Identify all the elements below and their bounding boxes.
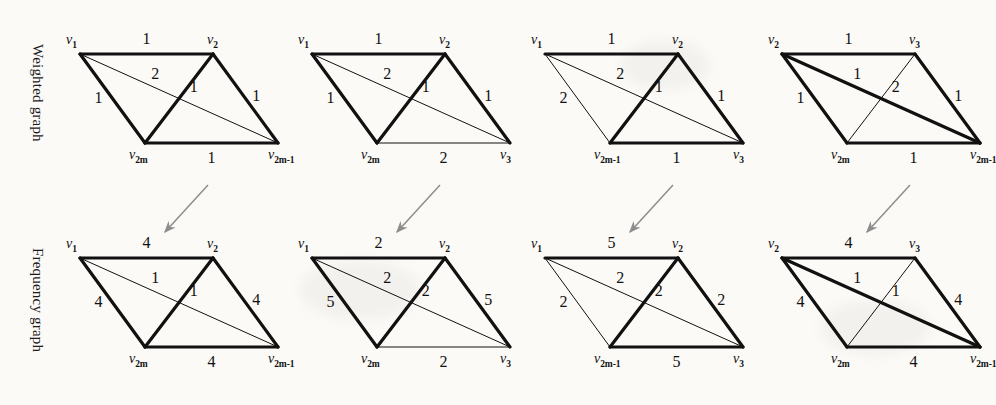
vertex-label-bottom-left: v2m [361, 147, 380, 165]
vertex-label-bottom-right: v3 [733, 351, 744, 369]
vertex-label-top-left: v2 [768, 236, 779, 254]
vertex-label-top-left: v1 [66, 32, 77, 50]
edge-weight-label: 1 [717, 87, 725, 105]
edge-weight-label: 2 [717, 291, 725, 309]
edge-weight-label: 1 [327, 89, 335, 107]
edge-weight-label: 1 [608, 30, 616, 48]
transform-arrow [165, 185, 208, 232]
edge-weight-label: 1 [954, 87, 962, 105]
graph-edge-long-diagonal [782, 258, 980, 347]
edge-weight-label: 1 [252, 87, 260, 105]
edge-weight-label: 1 [422, 78, 430, 96]
vertex-label-bottom-left: v2m-1 [594, 147, 620, 165]
edge-weight-label: 5 [484, 291, 492, 309]
graph-edge-left [80, 54, 145, 143]
edge-weight-label: 2 [383, 269, 391, 287]
edge-weight-label: 1 [190, 282, 198, 300]
edge-weight-label: 1 [892, 282, 900, 300]
edge-weight-label: 1 [673, 149, 681, 167]
edge-weight-label: 1 [910, 149, 918, 167]
graph-edge-long-diagonal [782, 54, 980, 143]
vertex-label-top-right: v2 [672, 32, 683, 50]
vertex-label-top-left: v1 [298, 32, 309, 50]
graph-edge-long-diagonal [80, 258, 278, 347]
edge-weight-label: 4 [95, 293, 103, 311]
vertex-label-top-right: v2 [672, 236, 683, 254]
edge-weight-label: 1 [853, 269, 861, 287]
vertex-label-top-right: v2 [207, 236, 218, 254]
edge-weight-label: 2 [383, 65, 391, 83]
graph-edge-long-diagonal [545, 258, 743, 347]
edge-weight-label: 1 [655, 78, 663, 96]
edge-weight-label: 2 [892, 78, 900, 96]
vertex-label-top-left: v1 [298, 236, 309, 254]
edge-weight-label: 5 [327, 293, 335, 311]
edge-weight-label: 1 [375, 30, 383, 48]
graph-edge-right [445, 258, 510, 347]
vertex-label-bottom-right: v3 [500, 351, 511, 369]
vertex-label-top-left: v1 [531, 236, 542, 254]
graph-edge-left [312, 54, 377, 143]
graph-edge-long-diagonal [312, 258, 510, 347]
edge-weight-label: 1 [190, 78, 198, 96]
graph-edge-right [213, 258, 278, 347]
edge-weight-label: 4 [208, 353, 216, 371]
edge-weight-label: 4 [252, 291, 260, 309]
edge-weight-label: 1 [845, 30, 853, 48]
row-label-weighted-graph: Weighted graph [29, 44, 46, 142]
transform-arrow [397, 185, 440, 232]
vertex-label-bottom-left: v2m [361, 351, 380, 369]
edge-weight-label: 2 [375, 234, 383, 252]
edge-weight-label: 2 [151, 65, 159, 83]
graph-edge-left [312, 258, 377, 347]
graph-edge-long-diagonal [80, 54, 278, 143]
edge-weight-label: 1 [95, 89, 103, 107]
edge-weight-label: 2 [440, 149, 448, 167]
vertex-label-bottom-right: v3 [733, 147, 744, 165]
row-label-frequency-graph: Frequency graph [29, 248, 46, 352]
transform-arrow [867, 185, 910, 232]
edge-weight-label: 4 [797, 293, 805, 311]
graph-edge-left [545, 54, 610, 143]
edge-weight-label: 1 [853, 65, 861, 83]
edge-weight-label: 5 [608, 234, 616, 252]
vertex-label-bottom-right: v2m-1 [970, 351, 996, 369]
graph-edge-left [545, 258, 610, 347]
vertex-label-bottom-right: v3 [500, 147, 511, 165]
edge-weight-label: 2 [616, 269, 624, 287]
vertex-label-top-left: v2 [768, 32, 779, 50]
edge-weight-label: 4 [954, 291, 962, 309]
edge-weight-label: 1 [143, 30, 151, 48]
vertex-label-top-right: v3 [909, 32, 920, 50]
vertex-label-bottom-left: v2m-1 [594, 351, 620, 369]
edge-weight-label: 2 [422, 282, 430, 300]
edge-weight-label: 1 [797, 89, 805, 107]
vertex-label-bottom-left: v2m [831, 351, 850, 369]
vertex-label-bottom-left: v2m [831, 147, 850, 165]
edge-weight-label: 2 [655, 282, 663, 300]
vertex-label-top-right: v2 [439, 236, 450, 254]
edge-weight-label: 1 [151, 269, 159, 287]
edge-weight-label: 4 [143, 234, 151, 252]
transform-arrow [630, 185, 673, 232]
edge-weight-label: 1 [484, 87, 492, 105]
vertex-label-bottom-left: v2m [129, 147, 148, 165]
graph-edge-long-diagonal [312, 54, 510, 143]
vertex-label-top-right: v2 [439, 32, 450, 50]
edge-weight-label: 5 [673, 353, 681, 371]
graph-edge-right [678, 54, 743, 143]
graph-edge-right [213, 54, 278, 143]
graph-edge-right [678, 258, 743, 347]
vertex-label-top-right: v3 [909, 236, 920, 254]
vertex-label-top-left: v1 [531, 32, 542, 50]
graph-edge-right [445, 54, 510, 143]
edge-weight-label: 2 [560, 89, 568, 107]
vertex-label-bottom-right: v2m-1 [268, 351, 294, 369]
edge-weight-label: 2 [616, 65, 624, 83]
vertex-label-top-right: v2 [207, 32, 218, 50]
edge-weight-label: 2 [440, 353, 448, 371]
graph-edge-long-diagonal [545, 54, 743, 143]
edge-weight-label: 4 [845, 234, 853, 252]
